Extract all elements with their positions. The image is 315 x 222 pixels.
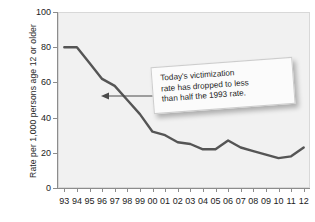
x-tick bbox=[279, 188, 280, 192]
x-tick bbox=[190, 188, 191, 192]
x-tick-label: 94 bbox=[72, 196, 82, 206]
x-tick bbox=[241, 188, 242, 192]
x-tick-label: 12 bbox=[299, 196, 309, 206]
x-tick-label: 11 bbox=[286, 196, 295, 206]
x-tick bbox=[115, 188, 116, 192]
x-tick-label: 99 bbox=[135, 196, 145, 206]
x-tick bbox=[291, 188, 292, 192]
y-tick-label: 20 bbox=[27, 148, 51, 158]
x-tick bbox=[90, 188, 91, 192]
x-tick bbox=[64, 188, 65, 192]
x-tick-label: 09 bbox=[261, 196, 271, 206]
x-tick-label: 05 bbox=[210, 196, 220, 206]
x-tick-label: 98 bbox=[122, 196, 132, 206]
y-tick bbox=[53, 118, 58, 119]
x-tick bbox=[140, 188, 141, 192]
x-tick-label: 96 bbox=[97, 196, 107, 206]
y-tick bbox=[53, 47, 58, 48]
x-tick bbox=[153, 188, 154, 192]
y-tick bbox=[53, 153, 58, 154]
y-tick-label: 40 bbox=[27, 113, 51, 123]
x-tick-label: 06 bbox=[223, 196, 233, 206]
x-tick-label: 93 bbox=[59, 196, 69, 206]
y-tick-label: 0 bbox=[27, 183, 51, 193]
x-tick bbox=[216, 188, 217, 192]
x-tick-label: 08 bbox=[248, 196, 258, 206]
y-tick-label: 80 bbox=[27, 42, 51, 52]
x-axis-line bbox=[57, 188, 310, 189]
x-tick bbox=[165, 188, 166, 192]
x-tick bbox=[127, 188, 128, 192]
y-axis-title: Rate per 1,000 persons age 12 or older bbox=[28, 6, 38, 196]
y-tick-label: 100 bbox=[27, 7, 51, 17]
x-tick-label: 97 bbox=[110, 196, 120, 206]
x-tick bbox=[266, 188, 267, 192]
x-tick-label: 10 bbox=[273, 196, 283, 206]
y-axis-line bbox=[57, 12, 58, 188]
chart-figure: Rate per 1,000 persons age 12 or older 0… bbox=[0, 0, 315, 222]
x-tick-label: 03 bbox=[185, 196, 195, 206]
x-tick-label: 07 bbox=[236, 196, 246, 206]
y-tick bbox=[53, 188, 58, 189]
x-tick-label: 04 bbox=[198, 196, 208, 206]
x-tick-label: 02 bbox=[173, 196, 183, 206]
y-tick bbox=[53, 12, 58, 13]
x-tick bbox=[178, 188, 179, 192]
x-tick-label: 01 bbox=[160, 196, 170, 206]
x-tick bbox=[77, 188, 78, 192]
x-tick-label: 00 bbox=[147, 196, 157, 206]
x-tick bbox=[253, 188, 254, 192]
x-tick-label: 95 bbox=[84, 196, 94, 206]
x-tick bbox=[228, 188, 229, 192]
x-tick bbox=[203, 188, 204, 192]
y-tick bbox=[53, 82, 58, 83]
y-tick-label: 60 bbox=[27, 77, 51, 87]
x-tick bbox=[304, 188, 305, 192]
callout-arrow bbox=[100, 86, 160, 106]
x-tick bbox=[102, 188, 103, 192]
